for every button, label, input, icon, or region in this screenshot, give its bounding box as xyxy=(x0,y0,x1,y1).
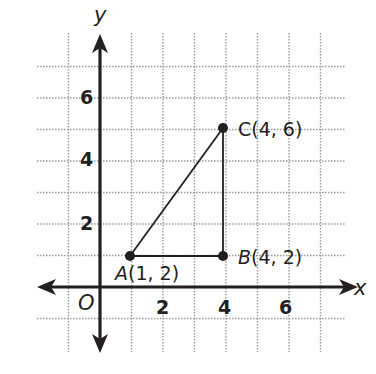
point-b-label: B(4, 2) xyxy=(238,246,302,268)
origin-label: O xyxy=(78,291,95,315)
point-b-name: B xyxy=(238,246,251,268)
point-c-coords: (4, 6) xyxy=(251,118,302,140)
x-axis-label: x xyxy=(353,276,367,300)
point-a-label: A(1, 2) xyxy=(113,262,179,284)
x-tick-4: 4 xyxy=(218,296,231,318)
x-tick-2: 2 xyxy=(156,296,169,318)
point-a xyxy=(125,251,135,261)
y-tick-6: 6 xyxy=(80,86,93,108)
y-tick-2: 2 xyxy=(80,212,93,234)
point-c-label: C(4, 6) xyxy=(238,118,302,140)
y-tick-4: 4 xyxy=(80,148,93,170)
y-axis-label: y xyxy=(93,3,107,27)
point-b xyxy=(218,251,228,261)
coordinate-plane: y x O 6 4 2 2 4 6 A(1, 2) B(4, 2) C(4, 6… xyxy=(0,0,376,374)
point-a-name: A xyxy=(113,262,128,284)
point-b-coords: (4, 2) xyxy=(251,246,302,268)
point-a-coords: (1, 2) xyxy=(128,262,179,284)
point-c xyxy=(218,123,228,133)
x-tick-6: 6 xyxy=(279,296,292,318)
point-c-name: C xyxy=(238,118,251,140)
